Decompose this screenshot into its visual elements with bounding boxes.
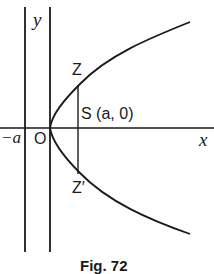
z-upper-label: Z <box>72 62 82 78</box>
focus-label-text: S (a, 0) <box>81 105 133 122</box>
x-axis-label: x <box>199 130 207 149</box>
figure-caption: Fig. 72 <box>80 258 128 273</box>
y-axis-label: y <box>33 10 41 29</box>
neg-a-label: −a <box>1 129 21 146</box>
z-lower-label: Z′ <box>72 180 85 196</box>
focus-label: S (a, 0) <box>81 106 133 122</box>
origin-label: O <box>34 131 46 147</box>
